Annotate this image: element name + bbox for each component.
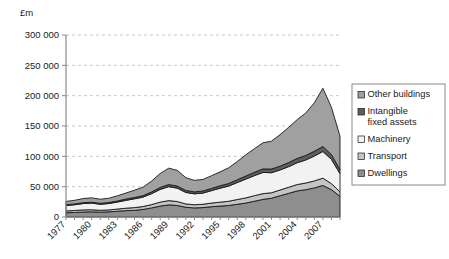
y-tick-label: 150 000 xyxy=(25,120,59,131)
legend-label: Machinery xyxy=(368,134,411,144)
y-axis-ticks: 300 000250 000200 000150 000100 00050 00… xyxy=(25,29,66,222)
legend-label: Dwellings xyxy=(368,168,408,178)
area-series-group xyxy=(66,88,340,217)
legend-label: Intangible xyxy=(368,106,408,116)
x-tick-label: 1983 xyxy=(96,219,119,242)
x-tick-label: 1998 xyxy=(224,219,247,242)
legend-swatch-machinery xyxy=(358,136,365,143)
chart-canvas: £m 300 000250 000200 000150 000100 00050… xyxy=(0,0,449,259)
x-axis-ticks: 1977198019831986198919921995199820012004… xyxy=(45,217,340,241)
x-tick-label: 1986 xyxy=(122,219,145,242)
x-tick-label: 2001 xyxy=(250,219,273,242)
legend-label: Other buildings xyxy=(368,89,431,99)
x-tick-label: 1995 xyxy=(199,219,222,242)
y-tick-label: 50 000 xyxy=(30,181,59,192)
y-tick-label: 100 000 xyxy=(25,151,59,162)
x-tick-label: 1992 xyxy=(173,219,196,242)
x-tick-label: 2007 xyxy=(302,219,325,242)
legend-swatch-transport xyxy=(358,153,365,160)
x-tick-label: 2004 xyxy=(276,219,299,242)
x-tick-label: 1977 xyxy=(45,219,68,242)
stacked-area-chart: £m 300 000250 000200 000150 000100 00050… xyxy=(0,0,449,259)
legend-label: Transport xyxy=(368,151,408,161)
legend-swatch-other-buildings xyxy=(358,92,365,99)
x-tick-label: 1980 xyxy=(70,219,93,242)
y-tick-label: 200 000 xyxy=(25,90,59,101)
legend-label: fixed assets xyxy=(368,117,417,127)
legend-swatch-dwellings xyxy=(358,170,365,177)
y-tick-label: 250 000 xyxy=(25,60,59,71)
chart-legend: Other buildingsIntangiblefixed assetsMac… xyxy=(352,84,445,185)
y-axis-unit-label: £m xyxy=(20,7,33,18)
x-tick-label: 1989 xyxy=(147,219,170,242)
y-tick-label: 300 000 xyxy=(25,29,59,40)
legend-swatch-intangible-fixed-assets xyxy=(358,109,365,116)
